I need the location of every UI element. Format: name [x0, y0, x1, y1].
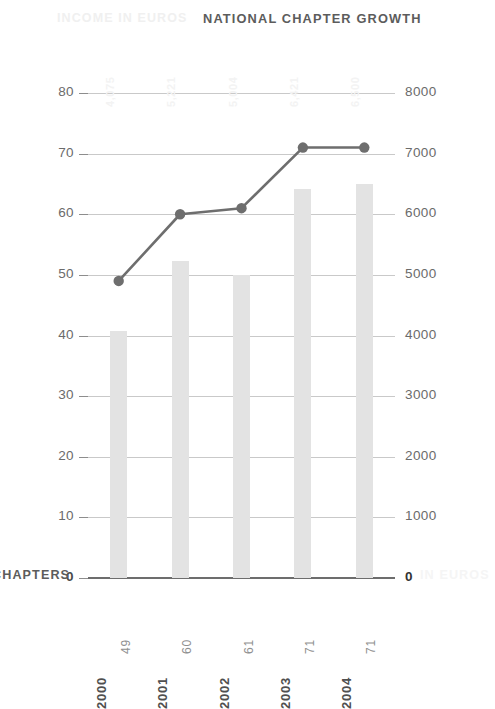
right-axis-caption: IN EUROS [420, 568, 490, 582]
x-axis-chapter-count-label: 61 [242, 639, 256, 654]
x-axis-label-group: 200371 [273, 600, 333, 700]
plot-area [88, 93, 395, 578]
right-axis-tick-label: 4000 [405, 327, 475, 342]
line-marker [298, 142, 308, 152]
left-axis-caption: CHAPTERS [0, 568, 70, 582]
bar-value-label: 5,004 [227, 76, 239, 107]
x-axis-labels: 200049200160200261200371200471 [0, 600, 495, 700]
right-axis-tick-label: 6000 [405, 205, 475, 220]
left-axis-tick-mark [79, 578, 88, 579]
x-axis-year-label: 2003 [278, 677, 293, 709]
right-axis-tick-label: 5000 [405, 266, 475, 281]
x-axis-year-label: 2004 [339, 677, 354, 709]
left-axis-tick-mark [79, 275, 88, 276]
line-path [119, 148, 365, 281]
right-axis-tick-label: 1000 [405, 508, 475, 523]
left-axis-tick-mark [79, 336, 88, 337]
x-axis-chapter-count-label: 71 [303, 639, 317, 654]
chart-title: NATIONAL CHAPTER GROWTH [203, 11, 422, 26]
left-axis-tick-label: 50 [24, 266, 74, 281]
left-axis-tick-label: 30 [24, 387, 74, 402]
x-axis-chapter-count-label: 71 [364, 639, 378, 654]
x-axis-year-label: 2000 [94, 677, 109, 709]
left-axis-tick-label: 60 [24, 205, 74, 220]
x-axis-label-group: 200261 [212, 600, 272, 700]
left-axis-tick-mark [79, 154, 88, 155]
line-marker [114, 276, 124, 286]
x-axis-year-label: 2001 [155, 677, 170, 709]
line-marker [175, 209, 185, 219]
x-axis-year-label: 2002 [217, 677, 232, 709]
line-marker [359, 142, 369, 152]
bar-value-label: 6,421 [288, 76, 300, 107]
line-marker [236, 203, 246, 213]
left-axis-tick-mark [79, 93, 88, 94]
left-axis-tick-label: 80 [24, 84, 74, 99]
left-axis-tick-mark [79, 396, 88, 397]
x-axis-chapter-count-label: 60 [180, 639, 194, 654]
x-axis-chapter-count-label: 49 [119, 639, 133, 654]
left-axis-tick-label: 70 [24, 145, 74, 160]
right-axis-tick-label: 8000 [405, 84, 475, 99]
left-axis-tick-mark [79, 517, 88, 518]
right-axis-tick-label: 2000 [405, 448, 475, 463]
right-axis-tick-label: 7000 [405, 145, 475, 160]
left-axis-tick-mark [79, 214, 88, 215]
left-axis-tick-mark [79, 457, 88, 458]
bar-value-label: 5,221 [165, 76, 177, 107]
bar-value-label: 6,500 [349, 76, 361, 107]
line-series [88, 93, 395, 578]
left-axis-tick-label: 10 [24, 508, 74, 523]
left-axis-tick-label: 40 [24, 327, 74, 342]
right-axis-tick-label: 3000 [405, 387, 475, 402]
x-axis-label-group: 200049 [89, 600, 149, 700]
chart-header: INCOME IN EUROS NATIONAL CHAPTER GROWTH [0, 11, 495, 31]
left-axis-tick-label: 20 [24, 448, 74, 463]
x-axis-label-group: 200160 [150, 600, 210, 700]
bar-value-label: 4,075 [104, 76, 116, 107]
x-axis-label-group: 200471 [334, 600, 394, 700]
chart-subtitle: INCOME IN EUROS [57, 11, 187, 25]
